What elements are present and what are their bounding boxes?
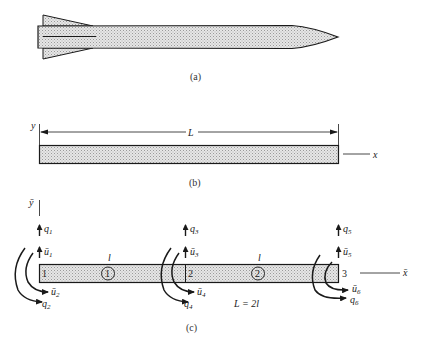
node-label-1: 1 [42,268,47,279]
u4-label: ū4 [197,286,206,299]
y-axis-label: y [30,120,36,131]
beam-element-diagram: (a) y L x (b) ȳ 1 2 3 1 l 2 l [0,0,424,342]
q2-label: q2 [42,298,51,311]
ybar-axis-label: ȳ [28,197,34,208]
q1-label: q1 [44,223,53,236]
caption-c: (c) [186,322,197,334]
q2-moment-arrow-icon [15,248,42,302]
q3-label: q3 [190,223,199,236]
length-relation: L = 2l [233,298,259,309]
rocket-top-fin [43,15,93,26]
node-label-2: 2 [188,268,193,279]
element-label-2: 2 [255,268,260,279]
x-axis-label: x [372,149,378,160]
dimension-arrow-left-icon [40,130,48,135]
element-length-2: l [258,252,261,263]
caption-a: (a) [190,71,201,83]
panel-b-beam: y L x [30,120,378,164]
dimension-arrow-right-icon [330,130,338,135]
beam-b [40,146,339,164]
rocket-bottom-fin [43,48,93,59]
node-label-3: 3 [342,268,347,279]
q5-label: q5 [343,223,352,236]
panel-a-rocket [38,15,338,59]
u1-label: ū1 [44,246,53,259]
u3-label: ū3 [190,246,199,259]
element-length-1: l [108,252,111,263]
element-label-1: 1 [105,268,110,279]
u5-label: ū5 [343,246,352,259]
q4-label: q4 [184,298,193,311]
u2-label: ū2 [51,286,60,299]
xbar-axis-label: x̄ [402,267,408,278]
caption-b: (b) [189,177,201,189]
panel-c-beam: ȳ 1 2 3 1 l 2 l x̄ q1 ū1 ū2 q2 [15,197,408,311]
length-label: L [187,127,194,138]
